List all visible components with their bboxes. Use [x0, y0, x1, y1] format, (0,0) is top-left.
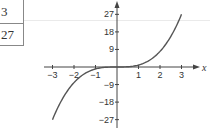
x-tick-label: −1 — [90, 70, 100, 80]
x-tick-label: 1 — [136, 70, 141, 80]
y-tick-label: 27 — [104, 9, 114, 19]
y-tick-label: −18 — [99, 97, 114, 107]
x-axis-arrow-icon — [193, 65, 200, 70]
axes: x — [44, 1, 207, 128]
y-tick-label: −9 — [104, 80, 114, 90]
x-tick-label: −3 — [47, 70, 57, 80]
y-tick-label: 18 — [104, 27, 114, 37]
x-tick-label: 2 — [157, 70, 162, 80]
cubic-function-plot: x −3−2−112327189−9−18−27 — [0, 0, 210, 135]
y-axis-arrow-icon — [115, 1, 120, 8]
x-axis-label: x — [201, 62, 207, 73]
x-tick-label: 3 — [179, 70, 184, 80]
y-tick-label: 9 — [109, 44, 114, 54]
y-tick-label: −27 — [99, 115, 114, 125]
